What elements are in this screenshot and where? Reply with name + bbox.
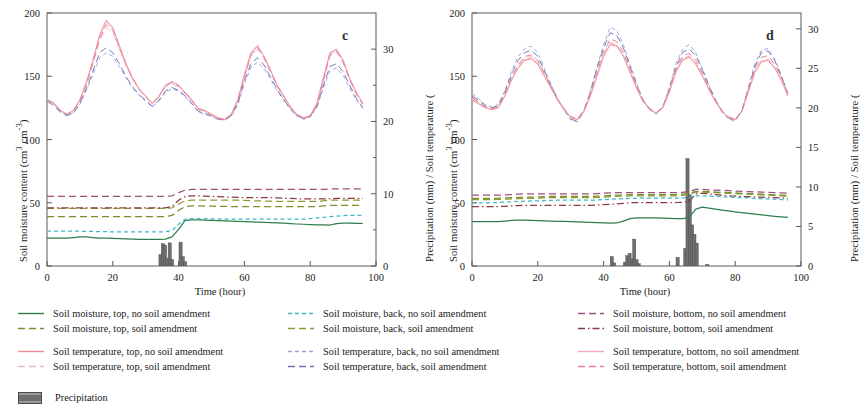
legend-line-swatch bbox=[18, 346, 44, 357]
series-line bbox=[472, 27, 788, 122]
legend-label: Soil temperature, top, soil amendment bbox=[53, 359, 210, 374]
panel-label-c: c bbox=[342, 28, 348, 44]
legend-line-swatch bbox=[18, 308, 44, 319]
svg-text:20: 20 bbox=[808, 103, 819, 114]
legend-line-swatch bbox=[18, 323, 44, 334]
legend-column-top: Soil moisture, top, no soil amendmentSoi… bbox=[18, 306, 300, 374]
chart-legend: Soil moisture, top, no soil amendmentSoi… bbox=[0, 306, 855, 414]
svg-text:80: 80 bbox=[305, 272, 316, 283]
legend-group-gap bbox=[18, 336, 300, 344]
series-line bbox=[472, 42, 788, 119]
legend-line-swatch bbox=[288, 346, 314, 357]
legend-line-swatch bbox=[288, 323, 314, 334]
precipitation-bar bbox=[613, 263, 616, 266]
y-axis-title-right-d: Precipitation (mm) / Soil temperature ( bbox=[849, 95, 860, 262]
legend-label: Soil moisture, bottom, soil amendment bbox=[613, 321, 773, 336]
legend-column-bottom: Soil moisture, bottom, no soil amendment… bbox=[578, 306, 855, 374]
legend-item: Soil moisture, top, soil amendment bbox=[18, 321, 300, 336]
legend-item: Soil temperature, back, soil amendment bbox=[288, 359, 578, 374]
legend-item: Soil temperature, top, no soil amendment bbox=[18, 344, 300, 359]
legend-line-swatch bbox=[578, 361, 604, 372]
svg-text:0: 0 bbox=[44, 272, 49, 283]
precipitation-bar bbox=[706, 264, 709, 266]
svg-text:0: 0 bbox=[460, 261, 465, 272]
svg-text:20: 20 bbox=[383, 116, 394, 127]
legend-line-swatch bbox=[578, 308, 604, 319]
precipitation-bar bbox=[676, 257, 679, 266]
panel-label-d: d bbox=[766, 28, 774, 44]
precipitation-bar bbox=[695, 243, 698, 266]
svg-text:5: 5 bbox=[808, 221, 813, 232]
legend-label: Soil temperature, back, soil amendment bbox=[323, 359, 487, 374]
legend-line-swatch bbox=[18, 361, 44, 372]
legend-item: Soil moisture, bottom, soil amendment bbox=[578, 321, 855, 336]
legend-line-swatch bbox=[288, 308, 314, 319]
legend-line-swatch bbox=[578, 346, 604, 357]
series-line bbox=[47, 215, 363, 231]
legend-item-precipitation: Precipitation bbox=[18, 390, 108, 405]
svg-text:15: 15 bbox=[808, 142, 819, 153]
precipitation-bar bbox=[637, 264, 640, 266]
legend-column-back: Soil moisture, back, no soil amendmentSo… bbox=[288, 306, 578, 374]
svg-text:0: 0 bbox=[469, 272, 474, 283]
legend-label: Soil moisture, back, soil amendment bbox=[323, 321, 473, 336]
plot-area-c: 0204060801000501001502000102030 bbox=[0, 0, 430, 300]
precipitation-bar bbox=[170, 259, 173, 266]
svg-text:10: 10 bbox=[383, 189, 394, 200]
legend-item: Soil moisture, back, soil amendment bbox=[288, 321, 578, 336]
legend-item: Soil moisture, bottom, no soil amendment bbox=[578, 306, 855, 321]
legend-group-gap bbox=[578, 336, 855, 344]
legend-label: Soil temperature, back, no soil amendmen… bbox=[323, 344, 499, 359]
legend-label-precipitation: Precipitation bbox=[55, 390, 108, 405]
series-line bbox=[472, 207, 788, 223]
svg-text:200: 200 bbox=[24, 8, 40, 19]
chart-panel-c: 0204060801000501001502000102030 c Soil m… bbox=[0, 0, 430, 300]
legend-label: Soil moisture, back, no soil amendment bbox=[323, 306, 486, 321]
series-line bbox=[47, 220, 363, 240]
svg-text:50: 50 bbox=[30, 198, 41, 209]
series-line bbox=[472, 45, 788, 120]
legend-group-gap bbox=[288, 336, 578, 344]
legend-item: Soil temperature, top, soil amendment bbox=[18, 359, 300, 374]
svg-text:30: 30 bbox=[383, 44, 394, 55]
x-axis-title-d: Time (hour) bbox=[545, 286, 745, 297]
svg-text:30: 30 bbox=[808, 24, 819, 35]
svg-text:200: 200 bbox=[449, 8, 465, 19]
chart-panel-d: 020406080100050100150200051015202530 d S… bbox=[430, 0, 855, 300]
svg-text:0: 0 bbox=[383, 261, 388, 272]
svg-text:20: 20 bbox=[108, 272, 119, 283]
series-line bbox=[472, 33, 788, 122]
precipitation-bar bbox=[184, 262, 187, 266]
plot-area-d: 020406080100050100150200051015202530 bbox=[430, 0, 855, 300]
svg-text:40: 40 bbox=[598, 272, 609, 283]
legend-item: Soil temperature, bottom, no soil amendm… bbox=[578, 344, 855, 359]
x-axis-title-c: Time (hour) bbox=[120, 286, 320, 297]
svg-text:60: 60 bbox=[239, 272, 250, 283]
svg-text:150: 150 bbox=[24, 71, 40, 82]
legend-label: Soil moisture, bottom, no soil amendment bbox=[613, 306, 786, 321]
legend-line-swatch bbox=[288, 361, 314, 372]
legend-label: Soil temperature, bottom, soil amendment bbox=[613, 359, 786, 374]
legend-item: Soil moisture, top, no soil amendment bbox=[18, 306, 300, 321]
svg-text:100: 100 bbox=[368, 272, 384, 283]
series-line bbox=[472, 39, 788, 120]
legend-label: Soil moisture, top, soil amendment bbox=[53, 321, 197, 336]
y-axis-title-left-c: Soil moisture content (cm3 cm-3) bbox=[14, 119, 29, 262]
legend-item: Soil moisture, back, no soil amendment bbox=[288, 306, 578, 321]
y-axis-title-left-d: Soil moisture content (cm3 cm-3) bbox=[444, 119, 459, 262]
svg-text:40: 40 bbox=[173, 272, 184, 283]
svg-text:20: 20 bbox=[533, 272, 544, 283]
series-line bbox=[47, 53, 363, 120]
svg-text:10: 10 bbox=[808, 182, 819, 193]
series-line bbox=[47, 20, 363, 119]
legend-label: Soil moisture, top, no soil amendment bbox=[53, 306, 210, 321]
legend-item: Soil temperature, back, no soil amendmen… bbox=[288, 344, 578, 359]
series-line bbox=[47, 205, 363, 216]
precipitation-bar-swatch bbox=[18, 392, 42, 404]
svg-text:100: 100 bbox=[793, 272, 809, 283]
legend-label: Soil temperature, top, no soil amendment bbox=[53, 344, 223, 359]
svg-text:60: 60 bbox=[664, 272, 675, 283]
svg-text:0: 0 bbox=[808, 261, 813, 272]
legend-label: Soil temperature, bottom, no soil amendm… bbox=[613, 344, 799, 359]
